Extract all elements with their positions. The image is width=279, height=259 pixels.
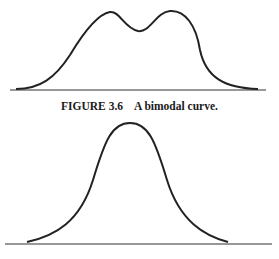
figure-caption: FIGURE 3.6 A bimodal curve.	[0, 100, 279, 112]
normal-curve	[27, 123, 228, 242]
normal-curve-plot	[5, 123, 272, 244]
bimodal-curve	[16, 11, 258, 89]
figure-canvas	[0, 0, 279, 259]
bimodal-curve-plot	[10, 11, 266, 90]
